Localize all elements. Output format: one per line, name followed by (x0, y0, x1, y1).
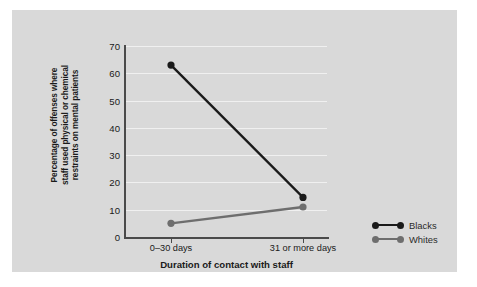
x-axis-tick-label: 31 or more days (270, 243, 336, 253)
y-axis-tick-label: 40 (102, 122, 120, 133)
y-axis-title: Percentage of offenses where staff used … (42, 25, 88, 225)
y-axis-tick-label: 20 (102, 177, 120, 188)
legend-label: Blacks (409, 220, 437, 231)
chart-legend: BlacksWhites (372, 218, 438, 246)
data-point-blacks (299, 194, 306, 201)
legend-swatch-icon (372, 234, 404, 244)
y-axis-tick-label: 60 (102, 68, 120, 79)
legend-item-whites[interactable]: Whites (372, 232, 438, 246)
series-line-whites (171, 207, 303, 223)
y-axis-tick-label: 0 (102, 232, 120, 243)
series-container (124, 46, 327, 237)
y-axis-title-text: Percentage of offenses where staff used … (49, 65, 81, 185)
y-axis-tick-label: 30 (102, 150, 120, 161)
series-line-blacks (171, 65, 303, 197)
legend-swatch-icon (372, 220, 404, 230)
y-axis-tick-labels: 010203040506070 (100, 46, 120, 237)
x-axis-line (124, 237, 329, 239)
data-point-whites (299, 203, 306, 210)
x-axis-tick-label: 0–30 days (150, 243, 192, 253)
y-axis-tick-label: 70 (102, 41, 120, 52)
y-axis-tick-label: 50 (102, 95, 120, 106)
data-point-blacks (167, 62, 174, 69)
y-axis-tick-label: 10 (102, 204, 120, 215)
data-point-whites (167, 220, 174, 227)
x-axis-title: Duration of contact with staff (124, 259, 329, 270)
chart-figure: Percentage of offenses where staff used … (12, 10, 457, 272)
legend-label: Whites (409, 234, 438, 245)
legend-item-blacks[interactable]: Blacks (372, 218, 438, 232)
